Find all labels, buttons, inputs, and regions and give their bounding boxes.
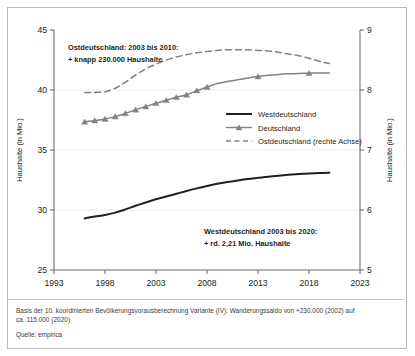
x-tick-label: 1998: [95, 278, 114, 288]
y-tick-label-right: 5: [367, 265, 372, 275]
figure-container: 2530354045567891993199820032008201320182…: [0, 0, 415, 356]
y-axis-title-left: Haushalte (in Mio.): [15, 118, 24, 182]
legend-label-0: Westdeutschland: [258, 110, 316, 119]
y-tick-label-right: 8: [367, 85, 372, 95]
chart-area: 2530354045567891993199820032008201320182…: [8, 8, 406, 300]
footnote-line-2: ca. 115.000 (2020): [16, 315, 396, 324]
line-chart: 2530354045567891993199820032008201320182…: [8, 8, 406, 300]
annotation-west-line-2: + rd. 2,21 Mio. Haushalte: [204, 239, 290, 248]
legend-label-1: Deutschland: [258, 124, 300, 133]
figure-footnote: Basis der 10. koordinierten Bevölkerungs…: [8, 299, 404, 339]
x-tick-label: 2018: [299, 278, 318, 288]
annotation-west-line-1: Westdeutschland 2003 bis 2020:: [204, 227, 317, 236]
y-tick-label-right: 7: [367, 145, 372, 155]
x-tick-label: 2003: [146, 278, 165, 288]
x-tick-label: 2008: [197, 278, 216, 288]
x-tick-label: 2023: [350, 278, 369, 288]
y-tick-label-right: 9: [367, 25, 372, 35]
y-tick-label-left: 35: [37, 145, 47, 155]
series-line-0: [85, 173, 330, 219]
y-tick-label-left: 25: [37, 265, 47, 275]
legend-label-2: Ostdeutschland (rechte Achse): [258, 137, 362, 146]
annotation-ost-line-2: + knapp 230.000 Haushalte: [68, 55, 162, 64]
y-tick-label-left: 40: [37, 85, 47, 95]
x-tick-label: 2013: [248, 278, 267, 288]
y-tick-label-right: 6: [367, 205, 372, 215]
y-tick-label-left: 30: [37, 205, 47, 215]
footnote-line-1: Basis der 10. koordinierten Bevölkerungs…: [16, 306, 396, 315]
y-axis-title-right: Haushalte (in Mio.): [385, 118, 394, 182]
x-tick-label: 1993: [44, 278, 63, 288]
annotation-ost-line-1: Ostdeutschland: 2003 bis 2010:: [68, 43, 179, 52]
figure-source: Quelle: empirica: [16, 330, 396, 339]
y-tick-label-left: 45: [37, 25, 47, 35]
